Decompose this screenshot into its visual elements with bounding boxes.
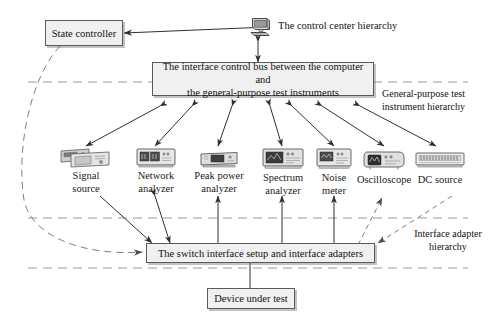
spectrum-analyzer-icon (260, 146, 306, 170)
general-purpose-hierarchy-label: General-purpose test instrument hierarch… (382, 88, 492, 113)
state-controller-box[interactable]: State controller (45, 20, 123, 46)
instrument-signal-source[interactable]: Signal source (46, 146, 126, 196)
signal-source-caption-line1: Signal (73, 170, 100, 181)
switch-interface-box[interactable]: The switch interface setup and interface… (146, 243, 375, 263)
spectrum-analyzer-caption: Spectrum analyzer (263, 172, 303, 197)
network-analyzer-caption-line2: analyzer (138, 183, 174, 194)
diagram-canvas: State controller The interface control b… (0, 0, 496, 320)
interface-bus-label-line1: The interface control bus between the co… (153, 60, 373, 86)
interface-adapter-hierarchy-line1: Interface adapter (414, 228, 481, 239)
peak-power-analyzer-caption: Peak power analyzer (194, 170, 243, 195)
dc-source-caption-line1: DC source (418, 174, 463, 185)
network-analyzer-caption-line1: Network (138, 170, 175, 181)
general-purpose-hierarchy-line1: General-purpose test (382, 88, 465, 99)
peak-power-analyzer-icon (198, 148, 240, 170)
control-center-label: The control center hierarchy (278, 20, 397, 33)
signal-source-icon (59, 146, 113, 168)
instrument-peak-power-analyzer[interactable]: Peak power analyzer (182, 146, 256, 196)
interface-control-bus-box[interactable]: The interface control bus between the co… (152, 62, 374, 96)
network-analyzer-caption: Network analyzer (138, 170, 175, 195)
device-under-test-label: Device under test (211, 292, 290, 305)
instrument-dc-source[interactable]: DC source (408, 146, 472, 196)
spectrum-analyzer-caption-line2: analyzer (265, 185, 301, 196)
control-center-to-state-controller-arrow (124, 27, 268, 33)
desktop-computer-icon (248, 16, 274, 40)
dc-source-caption: DC source (418, 174, 463, 187)
noise-meter-caption: Noise meter (322, 172, 347, 197)
switch-to-instruments-vertical-arrows (218, 196, 334, 243)
noise-meter-caption-line1: Noise (322, 172, 347, 183)
peak-power-analyzer-caption-line2: analyzer (201, 183, 237, 194)
switch-to-oscilloscope-dashed-arrow (358, 198, 382, 245)
spectrum-analyzer-caption-line1: Spectrum (263, 172, 303, 183)
general-purpose-hierarchy-line2: instrument hierarchy (382, 101, 465, 112)
oscilloscope-caption-line1: Oscilloscope (357, 174, 411, 185)
interface-adapter-hierarchy-line2: hierarchy (429, 241, 467, 252)
state-controller-label: State controller (49, 27, 119, 40)
oscilloscope-caption: Oscilloscope (357, 174, 411, 187)
signal-source-to-switch-line (100, 196, 152, 243)
network-analyzer-icon (134, 146, 178, 168)
control-center-node[interactable]: The control center hierarchy (248, 16, 448, 42)
interface-bus-label-line2: the general-purpose test instruments (184, 86, 342, 99)
switch-interface-label: The switch interface setup and interface… (155, 247, 366, 260)
oscilloscope-icon (361, 148, 407, 172)
peak-power-analyzer-caption-line1: Peak power (194, 170, 243, 181)
interface-adapter-hierarchy-label: Interface adapter hierarchy (398, 228, 496, 253)
device-under-test-box[interactable]: Device under test (207, 288, 295, 309)
signal-source-caption-line2: source (72, 183, 99, 194)
network-analyzer-switch-double-arrow (155, 196, 170, 243)
signal-source-caption: Signal source (72, 170, 99, 195)
noise-meter-caption-line2: meter (322, 185, 346, 196)
dc-source-icon (413, 150, 467, 172)
